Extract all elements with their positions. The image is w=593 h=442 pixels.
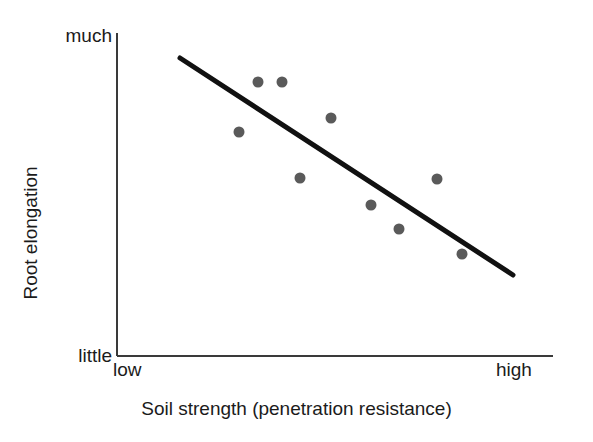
axes bbox=[117, 33, 553, 356]
x-axis-tick-label-right: high bbox=[496, 360, 532, 379]
data-point-8 bbox=[457, 249, 468, 260]
data-point-5 bbox=[366, 200, 377, 211]
trend-line bbox=[180, 58, 513, 275]
x-axis-title: Soil strength (penetration resistance) bbox=[0, 398, 593, 420]
scatter-plot-figure: much little low high Root elongation Soi… bbox=[0, 0, 593, 442]
data-point-6 bbox=[394, 224, 405, 235]
y-axis-title: Root elongation bbox=[16, 73, 46, 393]
data-point-1 bbox=[277, 77, 288, 88]
data-point-2 bbox=[234, 127, 245, 138]
data-point-0 bbox=[253, 77, 264, 88]
trend-line-segment bbox=[180, 58, 513, 275]
data-point-7 bbox=[432, 174, 443, 185]
x-axis-tick-label-left: low bbox=[113, 360, 142, 379]
data-point-3 bbox=[326, 113, 337, 124]
y-axis-tick-label-bottom: little bbox=[78, 346, 112, 365]
y-axis-tick-label-top: much bbox=[66, 26, 112, 45]
data-point-4 bbox=[295, 173, 306, 184]
